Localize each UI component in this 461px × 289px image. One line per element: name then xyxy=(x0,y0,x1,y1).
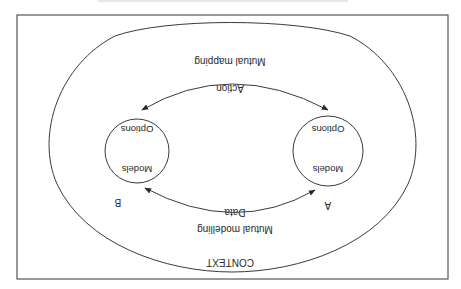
diagram-canvas: CONTEXT Mutual modelling Data A Models O… xyxy=(0,0,461,289)
context-label: CONTEXT xyxy=(206,257,254,268)
node-b-models: Models xyxy=(121,164,152,175)
mutual-mapping-caption: Mutual mapping xyxy=(194,56,265,67)
figure-frame xyxy=(17,15,448,279)
cutoff-caption-remnant xyxy=(98,0,348,2)
mutual-modelling-caption: Mutual modelling xyxy=(197,224,273,235)
node-a-options: Options xyxy=(311,124,344,135)
node-b-label: B xyxy=(114,197,121,208)
node-a-models: Models xyxy=(312,164,343,175)
action-label: Action xyxy=(216,83,244,94)
node-b-options: Options xyxy=(120,124,153,135)
node-a-label: A xyxy=(324,200,331,211)
